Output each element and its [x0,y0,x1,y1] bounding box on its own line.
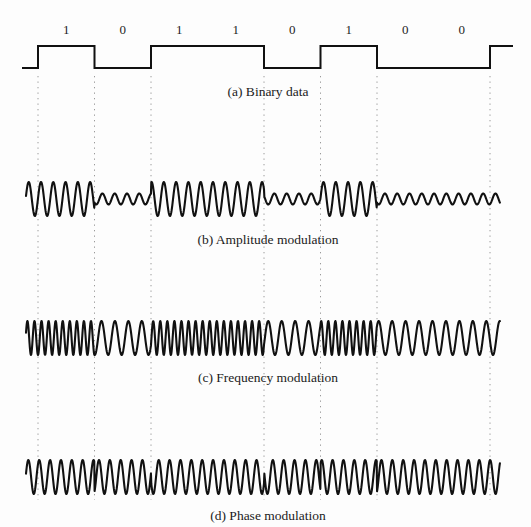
binary-data-waveform [22,46,513,68]
bit-label-5: 1 [345,22,352,38]
frequency-modulation-waveform [26,321,500,355]
bit-label-2: 1 [176,22,183,38]
bit-label-4: 0 [289,22,296,38]
bit-label-3: 1 [232,22,239,38]
phase-modulation-waveform [26,460,500,494]
figure-canvas [0,0,531,527]
guide-lines-group [38,76,490,500]
amplitude-modulation-waveform [26,182,500,216]
waveform-group [22,46,513,494]
modulation-figure: 10110100 (a) Binary data(b) Amplitude mo… [0,0,531,527]
caption-amplitude-modulation: (b) Amplitude modulation [198,232,339,248]
caption-phase-modulation: (d) Phase modulation [210,508,325,524]
bit-label-6: 0 [402,22,409,38]
caption-binary-data: (a) Binary data [228,84,309,100]
bit-label-1: 0 [119,22,126,38]
caption-frequency-modulation: (c) Frequency modulation [198,370,338,386]
bit-label-0: 1 [63,22,70,38]
bit-label-7: 0 [458,22,465,38]
